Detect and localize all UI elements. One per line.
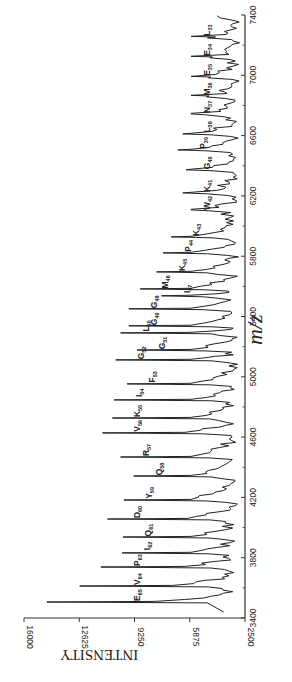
peak-label-text: G51: [157, 337, 168, 350]
peak-label-text: I54: [134, 388, 145, 397]
peak-label: L33: [202, 24, 213, 35]
peak-label: K43: [191, 224, 202, 236]
peak-label-text: F53: [147, 371, 158, 382]
mz-tick-label: 4600: [248, 427, 258, 446]
peak-label: P44: [183, 239, 194, 252]
intensity-axis-label: INTENSITY: [60, 647, 138, 663]
peak-label-text: K41: [202, 180, 213, 192]
peak-label-text: E35: [202, 64, 213, 76]
chart-container: 3400380042004600500054005800620066007000…: [0, 0, 292, 682]
intensity-tick-label: 9250: [136, 628, 146, 647]
mz-tick-label: 5000: [248, 367, 258, 386]
intensity-tick-label: 16000: [25, 625, 35, 649]
peak-labels: E65V64P63I62Q61D60Y59Q58R57V56K55I54F53G…: [132, 24, 213, 601]
peak-label: D60: [132, 506, 143, 518]
peak-label: K45: [177, 259, 188, 271]
peak-label: K55: [132, 405, 143, 417]
peak-label-text: Q58: [154, 463, 165, 476]
peak-label-text: P44: [183, 239, 194, 252]
mz-tick-label: 4200: [248, 488, 258, 507]
peak-label: G48: [149, 295, 160, 308]
peak-label: V64: [132, 572, 143, 585]
peak-label: Q58: [154, 463, 165, 476]
peak-label-text: G48: [149, 295, 160, 308]
peak-label-text: I62: [142, 542, 153, 551]
peak-label: G49: [149, 312, 160, 325]
peak-label: P39: [198, 137, 209, 149]
mz-tick-label: 3400: [248, 608, 258, 627]
peak-label: E34: [202, 43, 213, 56]
peak-label: E65: [132, 589, 143, 601]
mz-tick-label: 6200: [248, 186, 258, 205]
peak-label: R57: [141, 444, 152, 456]
peak-label: W42: [202, 196, 213, 210]
peak-label-text: W42: [202, 196, 213, 210]
peak-label-text: M36: [202, 82, 213, 95]
peak-label: M36: [202, 82, 213, 95]
peak-label-text: K43: [191, 224, 202, 236]
mz-tick-label: 7400: [248, 5, 258, 24]
mz-tick-label: 5800: [248, 246, 258, 265]
peak-label: Y59: [144, 487, 155, 499]
intensity-tick-label: 5875: [191, 628, 201, 647]
peak-label-text: L38: [202, 121, 213, 132]
peak-label-text: G49: [149, 312, 160, 325]
peak-label-text: E34: [202, 43, 213, 56]
peak-label-text: Y59: [144, 487, 155, 499]
peak-label: V56: [132, 420, 143, 432]
peak-label: G51: [157, 337, 168, 350]
peak-label: F53: [147, 371, 158, 382]
intensity-tick-label: 2500: [246, 628, 256, 647]
intensity-axis: 2500587592501262516000: [24, 618, 256, 649]
peak-label: G52: [136, 347, 147, 360]
intensity-tick-label: 12625: [80, 625, 90, 649]
peak-label: P63: [132, 554, 143, 566]
peak-label-text: D60: [132, 506, 143, 518]
peak-label-text: Q61: [143, 524, 154, 537]
peak-label-text: R57: [141, 444, 152, 456]
peak-label: M46: [160, 275, 171, 288]
mz-tick-label: 3800: [248, 548, 258, 567]
peak-label-text: K45: [177, 259, 188, 271]
peak-label: E35: [202, 64, 213, 76]
mz-axis-label: m/z: [242, 314, 267, 345]
peak-label-text: G52: [136, 347, 147, 360]
peak-label: G40: [202, 156, 213, 169]
peak-label-text: E65: [132, 589, 143, 601]
peak-label-text: N37: [202, 101, 213, 113]
peak-label-text: G40: [202, 156, 213, 169]
peak-label-text: M46: [160, 275, 171, 288]
peak-label-text: K55: [132, 405, 143, 417]
peak-label-text: L33: [202, 24, 213, 35]
mz-tick-label: 6600: [248, 126, 258, 145]
mass-spectrum-chart: 3400380042004600500054005800620066007000…: [0, 0, 292, 682]
peak-label: N37: [202, 101, 213, 113]
mz-tick-label: 7000: [248, 66, 258, 85]
peak-label: L38: [202, 121, 213, 132]
peak-label-text: P39: [198, 137, 209, 149]
peak-label: I62: [142, 542, 153, 551]
peak-label: I54: [134, 388, 145, 397]
peak-label-text: V56: [132, 420, 143, 432]
peak-label-text: P63: [132, 554, 143, 566]
peak-label: Q61: [143, 524, 154, 537]
peak-label-text: V64: [132, 572, 143, 585]
peak-label: K41: [202, 180, 213, 192]
